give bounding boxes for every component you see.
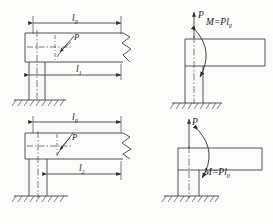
label-moment-top-right: M=Pl0	[206, 17, 232, 29]
column-top-left	[29, 30, 45, 102]
engineering-figure: l0 l1 P P M=Pl0 l0 l2 P P M=Pl0	[0, 0, 273, 224]
load-arrow-top-left	[57, 36, 74, 57]
ground-bottom-left	[12, 196, 68, 202]
load-arrow-bottom-left	[57, 133, 73, 155]
label-p-top-right: P	[198, 10, 204, 20]
label-l1: l1	[76, 64, 82, 76]
panel-bottom-left	[12, 116, 131, 202]
beam-top-right	[185, 39, 265, 66]
columns-bottom-right	[178, 146, 199, 198]
label-p-bottom-left: P	[72, 132, 77, 142]
centerline-bottom-left	[27, 134, 72, 158]
label-p-bottom-right: P	[192, 117, 198, 127]
label-l0-bottom: l0	[72, 112, 78, 124]
centerline-top-left	[27, 35, 72, 60]
dimension-l1	[29, 64, 121, 80]
column-top-right	[185, 36, 203, 104]
ground-top-left	[12, 100, 66, 106]
label-moment-bottom-right: M=Pl0	[204, 167, 230, 179]
label-l0-top: l0	[72, 13, 78, 25]
columns-bottom-left	[29, 131, 47, 198]
label-p-top-left: P	[74, 32, 79, 42]
moment-arc-tr	[196, 31, 206, 77]
label-l2: l2	[79, 163, 85, 175]
ground-bottom-right	[162, 196, 219, 202]
panel-bottom-right	[162, 119, 262, 202]
panel-top-left	[12, 16, 131, 106]
figure-linework	[0, 0, 273, 224]
ground-top-right	[170, 103, 222, 109]
